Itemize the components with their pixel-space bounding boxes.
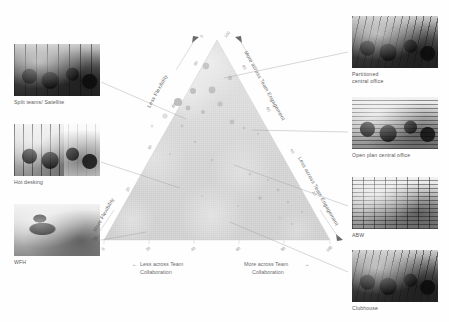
thumbnail-caption-wfh: WFH xyxy=(14,259,100,266)
thumbnail-card-clubhouse[interactable]: Clubhouse xyxy=(352,250,438,312)
bottom-left-line1: Less across Team xyxy=(140,261,184,267)
left-tick-80: 80 xyxy=(192,59,199,66)
thumbnail-caption-hot-desking: Hot desking xyxy=(14,179,100,186)
thumbnail-caption-abw: ABW xyxy=(352,232,438,239)
ternary-plot: 0 20 40 60 80 100 80 60 40 20 80 60 40 2… xyxy=(92,18,357,280)
thumbnail-image-abw xyxy=(352,177,438,229)
bottom-tick-40: 40 xyxy=(190,245,197,252)
bottom-right-line2: Collaboration xyxy=(252,269,284,275)
bottom-tick-60: 60 xyxy=(235,245,242,252)
bottom-label-left: ← Less across Team Collaboration xyxy=(132,261,184,275)
bottom-tick-20: 20 xyxy=(145,245,152,252)
bottom-label-right: More across Team → Collaboration xyxy=(244,261,309,275)
bottom-tick-80: 80 xyxy=(280,245,287,252)
thumbnail-caption-split-teams-satellite: Split teams/ Satellite xyxy=(14,99,100,106)
apex-tick-right: 100 xyxy=(223,30,232,39)
thumbnail-caption-clubhouse: Clubhouse xyxy=(352,305,438,312)
arrow-up-left-icon xyxy=(192,36,199,43)
thumbnail-image-split-teams-satellite xyxy=(14,44,100,96)
thumbnail-image-open-plan-central-office xyxy=(352,97,438,149)
thumbnail-image-partitioned-central-office xyxy=(352,16,438,68)
thumbnail-card-abw[interactable]: ABW xyxy=(352,177,438,239)
svg-text:Less Flexibility: Less Flexibility xyxy=(146,73,169,108)
thumbnail-card-partitioned-central-office[interactable]: Partitioned central office xyxy=(352,16,438,85)
bottom-tick-100: 100 xyxy=(325,244,334,253)
bottom-left-line2: Collaboration xyxy=(140,269,172,275)
arrow-down-right-icon xyxy=(336,234,343,241)
right-tick-60: 60 xyxy=(265,106,272,113)
right-tick-40: 40 xyxy=(289,148,296,155)
figure-canvas: Split teams/ Satellite Hot desking WFH P… xyxy=(0,0,449,322)
thumbnail-card-open-plan-central-office[interactable]: Open plan central office xyxy=(352,97,438,159)
right-tick-80: 80 xyxy=(241,64,248,71)
thumbnail-image-wfh xyxy=(14,204,100,256)
arrow-right-icon: → xyxy=(304,261,309,267)
arrow-down-left-icon xyxy=(91,234,98,241)
bottom-right-line1: More across Team xyxy=(244,261,289,267)
thumbnail-card-wfh[interactable]: WFH xyxy=(14,204,100,266)
thumbnail-image-clubhouse xyxy=(352,250,438,302)
left-tick-40: 40 xyxy=(146,143,153,150)
left-tick-20: 20 xyxy=(124,185,131,192)
thumbnail-caption-partitioned-central-office: Partitioned central office xyxy=(352,71,438,85)
apex-tick-left: 0 xyxy=(199,33,205,39)
arrow-up-right-icon xyxy=(235,36,242,43)
thumbnail-card-hot-desking[interactable]: Hot desking xyxy=(14,124,100,186)
arrow-left-icon: ← xyxy=(132,261,137,267)
thumbnail-caption-open-plan-central-office: Open plan central office xyxy=(352,152,438,159)
thumbnail-image-hot-desking xyxy=(14,124,100,176)
bottom-tick-0: 0 xyxy=(100,246,106,252)
triangle-body xyxy=(104,22,330,250)
bottom-axis-ticks: 0 20 40 60 80 100 xyxy=(100,240,333,253)
thumbnail-card-split-teams-satellite[interactable]: Split teams/ Satellite xyxy=(14,44,100,106)
